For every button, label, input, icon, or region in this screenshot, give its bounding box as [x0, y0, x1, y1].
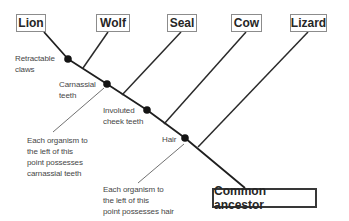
node-dot-retractable-claws	[64, 55, 72, 63]
pointer-line-hair-note	[138, 144, 184, 183]
branch-line-wolf	[83, 32, 108, 68]
trait-label-involuted-cheek-teeth: Involuted cheek teeth	[103, 105, 143, 127]
node-dot-hair	[181, 134, 189, 142]
annotation-hair-note: Each organism to the left of this point …	[103, 184, 174, 217]
taxon-box-lion: Lion	[16, 14, 46, 32]
cladogram-diagram: LionWolfSealCowLizardCommon ancestor Ret…	[0, 0, 349, 221]
taxon-box-lizard: Lizard	[290, 14, 327, 32]
common-ancestor-box: Common ancestor	[212, 188, 317, 208]
taxon-box-wolf: Wolf	[96, 14, 130, 32]
annotation-carnassial-note: Each organism to the left of this point …	[27, 135, 88, 179]
taxon-box-seal: Seal	[167, 14, 197, 32]
trait-label-hair: Hair	[162, 134, 176, 145]
branch-line-seal	[122, 32, 181, 95]
trait-label-retractable-claws: Retractable claws	[15, 53, 55, 75]
taxon-box-cow: Cow	[231, 14, 262, 32]
node-dot-carnassial-teeth	[103, 80, 111, 88]
branch-line-lizard	[198, 32, 308, 147]
node-dot-involuted-cheek-teeth	[143, 106, 151, 114]
trait-label-carnassial-teeth: Carnassial teeth	[59, 79, 96, 101]
